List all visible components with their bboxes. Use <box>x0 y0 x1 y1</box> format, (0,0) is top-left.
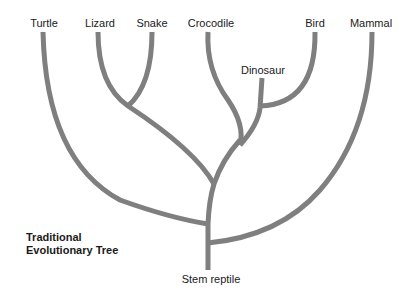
taxon-label-bird: Bird <box>305 17 325 29</box>
diagram-title-line2: Evolutionary Tree <box>26 244 118 257</box>
taxon-label-crocodile: Crocodile <box>188 17 234 29</box>
diagram-title: Traditional Evolutionary Tree <box>26 231 118 257</box>
branch-lizard <box>98 32 214 184</box>
taxon-label-snake: Snake <box>136 17 167 29</box>
taxon-label-lizard: Lizard <box>85 17 115 29</box>
branch-trunk <box>208 140 240 270</box>
taxon-label-mammal: Mammal <box>350 17 392 29</box>
diagram-title-line1: Traditional <box>26 231 118 244</box>
taxon-label-turtle: Turtle <box>30 17 58 29</box>
branch-turtle <box>43 32 208 224</box>
branch-crocodile <box>208 32 241 145</box>
branch-mammal <box>208 32 372 243</box>
root-label-stem-reptile: Stem reptile <box>182 273 241 285</box>
taxon-label-dinosaur: Dinosaur <box>241 64 285 76</box>
branch-snake <box>128 32 152 106</box>
